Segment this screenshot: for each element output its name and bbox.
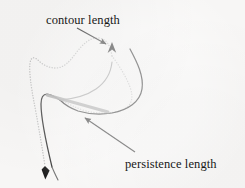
- polymer-length-diagram: contour length persistence length: [0, 0, 245, 188]
- persistence-length-label: persistence length: [125, 158, 217, 171]
- contour-length-label: contour length: [46, 14, 120, 27]
- persistence-length-arrow: [85, 118, 135, 152]
- chain-arrowhead-bottom: [42, 166, 50, 180]
- contour-length-arrow: [77, 28, 106, 44]
- dotted-chain-curve: [30, 38, 132, 166]
- chain-arrowhead-top: [108, 42, 117, 53]
